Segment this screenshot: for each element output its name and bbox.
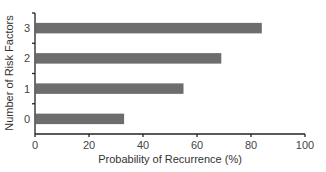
- y-tick-label: 0: [24, 113, 30, 125]
- x-tick-label: 40: [137, 139, 149, 151]
- y-axis-ticks: 0123: [24, 13, 35, 125]
- x-axis-title: Probability of Recurrence (%): [98, 153, 242, 165]
- bar-0: [36, 114, 124, 125]
- bar-2: [36, 53, 222, 64]
- y-tick-label: 3: [24, 22, 30, 34]
- y-axis-title: Number of Risk Factors: [3, 15, 15, 131]
- y-tick-label: 1: [24, 83, 30, 95]
- bars-group: [36, 23, 262, 124]
- bar-1: [36, 83, 184, 94]
- y-tick-label: 2: [24, 52, 30, 64]
- x-tick-label: 0: [32, 139, 38, 151]
- x-axis-ticks: 020406080100: [32, 134, 314, 151]
- x-tick-label: 100: [296, 139, 314, 151]
- x-tick-label: 20: [83, 139, 95, 151]
- bar-chart: 0123 020406080100 Probability of Recurre…: [0, 0, 326, 172]
- x-tick-label: 60: [191, 139, 203, 151]
- bar-3: [36, 23, 262, 34]
- x-tick-label: 80: [245, 139, 257, 151]
